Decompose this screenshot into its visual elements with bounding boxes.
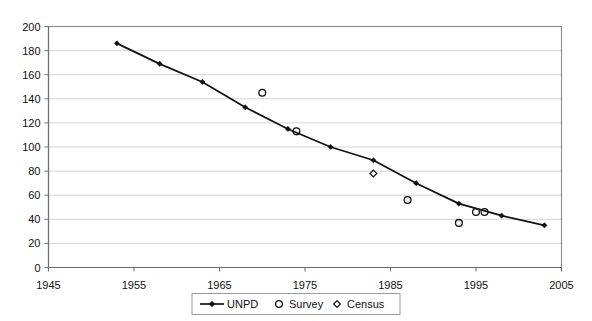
y-axis-tick-label: 140 — [22, 93, 40, 105]
legend-label-survey: Survey — [289, 298, 324, 310]
legend-label-unpd: UNPD — [227, 298, 258, 310]
y-axis-tick-label: 20 — [28, 237, 40, 249]
y-axis-tick-label: 0 — [34, 262, 40, 274]
chart-container: 200180160140120100806040200 194519551965… — [0, 0, 592, 321]
x-axis-tick-label: 1955 — [122, 279, 146, 291]
y-axis-tick-label: 160 — [22, 69, 40, 81]
y-axis-tick-label: 100 — [22, 141, 40, 153]
y-axis-tick-label: 80 — [28, 165, 40, 177]
x-axis-tick-label: 1995 — [464, 279, 488, 291]
x-axis-tick-label: 1985 — [378, 279, 402, 291]
x-axis-tick-label: 1945 — [36, 279, 60, 291]
y-axis-tick-label: 40 — [28, 213, 40, 225]
line-chart: 200180160140120100806040200 194519551965… — [0, 0, 592, 321]
x-axis-tick-label: 1975 — [293, 279, 317, 291]
y-axis-tick-label: 200 — [22, 21, 40, 33]
chart-background — [0, 0, 592, 321]
y-axis-tick-label: 120 — [22, 117, 40, 129]
x-axis-tick-label: 2005 — [549, 279, 573, 291]
chart-legend: UNPDSurveyCensus — [192, 294, 400, 315]
y-axis-tick-label: 180 — [22, 45, 40, 57]
legend-label-census: Census — [347, 298, 385, 310]
y-axis-tick-label: 60 — [28, 189, 40, 201]
x-axis-tick-label: 1965 — [207, 279, 231, 291]
